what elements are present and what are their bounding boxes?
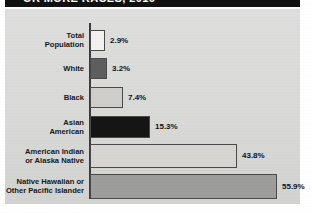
bar [90,58,107,79]
bar-value-label: 15.3% [155,122,178,131]
category-label: Black [64,93,84,102]
category-label: Native Hawaiian or Other Pacific Islande… [6,177,84,196]
bar-value-label: 3.2% [112,64,130,73]
bar [90,30,105,51]
bar-value-label: 2.9% [110,36,128,45]
bar [90,144,237,168]
chart-title-banner: OR MORE RACES, 2016 [5,0,300,7]
bar [90,87,123,108]
category-label: Total Population [45,31,84,50]
bar-value-label: 55.9% [282,182,305,191]
bar [90,116,150,138]
bar-value-label: 43.8% [242,151,265,160]
category-label: American Indian or Alaska Native [25,147,84,166]
plot-area: Total Population 2.9% White 3.2% Black 7… [5,15,300,198]
category-label: White [63,64,84,73]
bar [90,174,277,199]
chart-panel: Total Population 2.9% White 3.2% Black 7… [5,9,300,204]
chart-figure: OR MORE RACES, 2016 Total Population 2.9… [0,0,312,213]
bar-value-label: 7.4% [128,93,146,102]
chart-title: OR MORE RACES, 2016 [23,0,155,4]
category-label: Asian American [49,118,84,137]
